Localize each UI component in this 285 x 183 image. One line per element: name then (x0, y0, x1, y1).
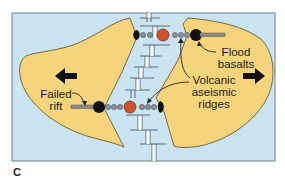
label-flood-basalts: Flood basalts (215, 46, 257, 70)
failed-rift-right (200, 33, 225, 37)
label-ridges: ridges (187, 98, 241, 110)
label-basalts: basalts (215, 58, 257, 70)
diagram-stage: Flood basalts Volcanic aseismic ridges F… (0, 0, 285, 183)
label-flood: Flood (215, 46, 257, 58)
label-volcanic: Volcanic (187, 74, 241, 86)
failed-rift-left (71, 105, 96, 109)
label-volcanic-aseismic-ridges: Volcanic aseismic ridges (187, 74, 241, 110)
label-failed: Failed (38, 88, 74, 100)
panel-letter: C (13, 166, 21, 178)
label-aseismic: aseismic (187, 86, 241, 98)
label-rift: rift (38, 100, 74, 112)
flood-basalt-head-lower (93, 101, 105, 113)
hotspot-lower (124, 101, 136, 113)
hotspot-upper (157, 29, 169, 41)
label-failed-rift: Failed rift (38, 88, 74, 112)
